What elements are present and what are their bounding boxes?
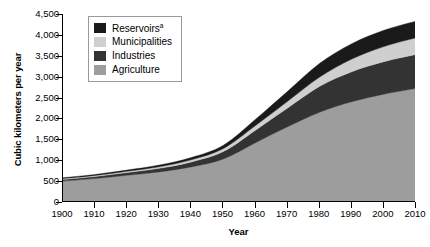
legend-item: Municipalities [94, 35, 172, 49]
x-tick-mark [158, 202, 159, 208]
chart-legend: ReservoirsaMunicipalitiesIndustriesAgric… [88, 16, 182, 82]
y-tick-label: 1,500 [15, 134, 59, 144]
x-tick-mark [190, 202, 191, 208]
y-tick-mark [56, 181, 62, 182]
y-tick-label: 500 [15, 176, 59, 186]
legend-swatch-icon [94, 65, 106, 75]
y-tick-label: 4,000 [15, 30, 59, 40]
y-tick-mark [56, 14, 62, 15]
y-tick-mark [56, 98, 62, 99]
x-tick-mark [287, 202, 288, 208]
legend-swatch-icon [94, 51, 106, 61]
x-tick-mark [383, 202, 384, 208]
legend-label: Industries [112, 51, 155, 61]
y-tick-mark [56, 77, 62, 78]
y-tick-label: 1,000 [15, 155, 59, 165]
x-tick-mark [222, 202, 223, 208]
y-tick-mark [56, 139, 62, 140]
x-tick-mark [255, 202, 256, 208]
x-tick-mark [351, 202, 352, 208]
y-tick-label: 0 [15, 197, 59, 207]
legend-swatch-icon [94, 37, 106, 47]
legend-label: Reservoirsa [112, 21, 163, 34]
legend-label: Municipalities [112, 37, 172, 47]
x-axis-title: Year [62, 226, 415, 237]
y-tick-label: 3,000 [15, 72, 59, 82]
legend-swatch-icon [94, 23, 106, 33]
y-tick-label: 2,000 [15, 113, 59, 123]
legend-item: Agriculture [94, 63, 172, 77]
y-tick-mark [56, 56, 62, 57]
x-tick-mark [415, 202, 416, 208]
legend-footnote-marker: a [160, 22, 164, 29]
y-tick-label: 2,500 [15, 93, 59, 103]
y-tick-mark [56, 118, 62, 119]
x-tick-label: 2010 [395, 208, 430, 219]
x-tick-mark [94, 202, 95, 208]
x-axis-tick-labels: 1900191019201930194019501960197019801990… [0, 208, 424, 224]
legend-label: Agriculture [112, 65, 160, 75]
y-tick-mark [56, 35, 62, 36]
legend-item: Reservoirsa [94, 21, 172, 35]
y-tick-label: 3,500 [15, 51, 59, 61]
y-tick-mark [56, 160, 62, 161]
y-tick-mark [56, 202, 62, 203]
y-tick-label: 4,500 [15, 9, 59, 19]
x-tick-mark [126, 202, 127, 208]
x-tick-mark [319, 202, 320, 208]
legend-item: Industries [94, 49, 172, 63]
